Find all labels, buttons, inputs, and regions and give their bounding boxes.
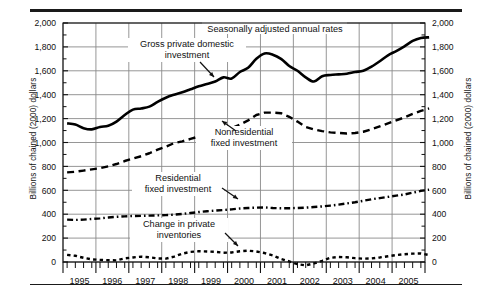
bottom-rule <box>30 284 462 285</box>
annotation-text: Seasonally adjusted annual rates <box>207 24 343 34</box>
y-tick-label-left: 400 <box>42 209 57 219</box>
y-tick-label-left: 1,000 <box>34 138 56 148</box>
y-tick-label-right: 0 <box>432 257 437 267</box>
annotation-text: Change in private <box>143 219 215 229</box>
y-tick-label-left: 0 <box>51 257 56 267</box>
annotation-text: fixed investment <box>145 184 212 194</box>
y-axis-label-left: Billions of chained (2000) dollars <box>29 59 38 219</box>
annotation-text: Gross private domestic <box>140 39 234 49</box>
annotations-group: Seasonally adjusted annual ratesGross pr… <box>128 22 347 246</box>
y-tick-label-left: 1,800 <box>34 42 56 52</box>
series-line-0 <box>67 37 429 129</box>
y-tick-label-right: 600 <box>432 186 447 196</box>
y-tick-label-right: 400 <box>432 209 447 219</box>
annotation-text: fixed investment <box>211 138 278 148</box>
series-line-2 <box>67 190 429 220</box>
y-tick-label-right: 800 <box>432 162 447 172</box>
annotation-text: inventories <box>157 230 202 240</box>
leader-arrowhead <box>233 194 238 199</box>
y-tick-label-right: 1,400 <box>432 90 454 100</box>
y-tick-label-left: 800 <box>42 162 57 172</box>
y-tick-label-right: 1,000 <box>432 138 454 148</box>
y-tick-label-left: 2,000 <box>34 18 56 28</box>
y-tick-label-left: 1,400 <box>34 90 56 100</box>
y-tick-label-right: 1,600 <box>432 66 454 76</box>
x-ticks-group <box>63 262 425 273</box>
y-tick-label-right: 2,000 <box>432 18 454 28</box>
top-rule <box>30 9 462 12</box>
y-axis-label-right: Billions of chained (2000) dollars <box>464 59 473 219</box>
annotation-text: investment <box>165 50 210 60</box>
leader-arrowhead <box>222 121 227 126</box>
figure-container: Billions of chained (2000) dollars Billi… <box>0 0 490 295</box>
y-tick-label-right: 1,200 <box>432 114 454 124</box>
y-tick-label-right: 1,800 <box>432 42 454 52</box>
annotation-text: Nonresidential <box>215 127 274 137</box>
y-tick-label-left: 600 <box>42 186 57 196</box>
chart-svg: 02004006008001,0001,2001,4001,6001,8002,… <box>0 0 490 295</box>
data-series-group <box>67 37 429 265</box>
y-tick-label-right: 200 <box>432 233 447 243</box>
y-tick-label-left: 1,600 <box>34 66 56 76</box>
y-tick-label-left: 1,200 <box>34 114 56 124</box>
annotation-text: Residential <box>155 173 200 183</box>
y-tick-label-left: 200 <box>42 233 57 243</box>
